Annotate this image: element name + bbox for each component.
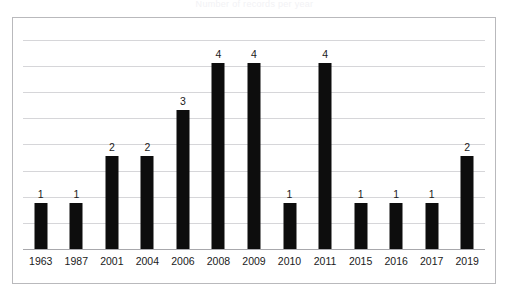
bar-slot: 2 bbox=[94, 18, 130, 249]
bar[interactable] bbox=[319, 63, 332, 249]
bar[interactable] bbox=[141, 156, 154, 249]
bar[interactable] bbox=[461, 156, 474, 249]
x-axis-label: 2017 bbox=[414, 254, 450, 268]
bar-value-label: 2 bbox=[464, 142, 470, 153]
x-axis-label: 2015 bbox=[343, 254, 379, 268]
bar-slot: 1 bbox=[378, 18, 414, 249]
bar-slot: 4 bbox=[201, 18, 237, 249]
x-axis-label: 2009 bbox=[236, 254, 272, 268]
bar[interactable] bbox=[176, 110, 189, 250]
bar-slot: 1 bbox=[59, 18, 95, 249]
bar[interactable] bbox=[247, 63, 260, 249]
bar-value-label: 1 bbox=[38, 189, 44, 200]
x-axis-line bbox=[23, 249, 485, 250]
bar-value-label: 3 bbox=[180, 96, 186, 107]
x-axis-label: 2011 bbox=[307, 254, 343, 268]
bar-value-label: 1 bbox=[358, 189, 364, 200]
x-axis-labels-group: 1963198720012004200620082009201020112015… bbox=[23, 254, 485, 270]
x-axis-label: 2008 bbox=[201, 254, 237, 268]
bar[interactable] bbox=[425, 203, 438, 250]
x-axis-label: 2001 bbox=[94, 254, 130, 268]
bar-slot: 1 bbox=[272, 18, 308, 249]
bar-slot: 1 bbox=[343, 18, 379, 249]
bar-value-label: 1 bbox=[287, 189, 293, 200]
chart-frame: 1122344141112 19631987200120042006200820… bbox=[12, 17, 496, 284]
x-axis-label: 1987 bbox=[59, 254, 95, 268]
x-axis-label: 2006 bbox=[165, 254, 201, 268]
bars-group: 1122344141112 bbox=[23, 18, 485, 249]
x-axis-label: 2019 bbox=[449, 254, 485, 268]
bar-value-label: 4 bbox=[251, 49, 257, 60]
bar-value-label: 4 bbox=[322, 49, 328, 60]
bar-value-label: 4 bbox=[216, 49, 222, 60]
x-axis-label: 2010 bbox=[272, 254, 308, 268]
bar[interactable] bbox=[34, 203, 47, 250]
plot-area: 1122344141112 19631987200120042006200820… bbox=[13, 18, 495, 283]
bar-slot: 1 bbox=[23, 18, 59, 249]
bar[interactable] bbox=[212, 63, 225, 249]
bar-slot: 3 bbox=[165, 18, 201, 249]
bar-value-label: 1 bbox=[73, 189, 79, 200]
bar-value-label: 1 bbox=[429, 189, 435, 200]
bar-slot: 2 bbox=[449, 18, 485, 249]
bar[interactable] bbox=[105, 156, 118, 249]
bar-slot: 1 bbox=[414, 18, 450, 249]
bar-value-label: 2 bbox=[144, 142, 150, 153]
bar-value-label: 2 bbox=[109, 142, 115, 153]
bar[interactable] bbox=[70, 203, 83, 250]
bar-slot: 4 bbox=[236, 18, 272, 249]
bar[interactable] bbox=[283, 203, 296, 250]
x-axis-label: 2016 bbox=[378, 254, 414, 268]
bar[interactable] bbox=[354, 203, 367, 250]
x-axis-label: 1963 bbox=[23, 254, 59, 268]
bar[interactable] bbox=[390, 203, 403, 250]
bar-slot: 4 bbox=[307, 18, 343, 249]
bar-value-label: 1 bbox=[393, 189, 399, 200]
x-axis-label: 2004 bbox=[130, 254, 166, 268]
chart-title-faint: Number of records per year bbox=[0, 0, 509, 9]
bar-slot: 2 bbox=[130, 18, 166, 249]
